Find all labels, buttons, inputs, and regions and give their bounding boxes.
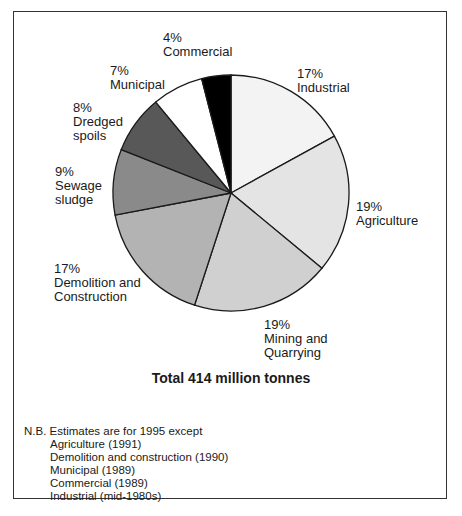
chart-total: Total 414 million tonnes xyxy=(0,370,462,386)
label-mining: 19% Mining and Quarrying xyxy=(264,318,328,360)
label-demolition: 17% Demolition and Construction xyxy=(54,262,141,304)
footnote-item: Municipal (1989) xyxy=(24,464,228,477)
footnote-item: Industrial (mid-1980s) xyxy=(24,490,228,503)
footnote-item: Commercial (1989) xyxy=(24,477,228,490)
footnote-item: Demolition and construction (1990) xyxy=(24,451,228,464)
label-sewage: 9% Sewage sludge xyxy=(55,165,102,207)
footnote: N.B. Estimates are for 1995 except Agric… xyxy=(24,425,228,503)
footnote-heading: N.B. Estimates are for 1995 except xyxy=(24,425,228,438)
label-dredged: 8% Dredged spoils xyxy=(73,101,123,143)
label-commercial: 4% Commercial xyxy=(163,31,232,59)
label-agriculture: 19% Agriculture xyxy=(356,200,418,228)
label-industrial: 17% Industrial xyxy=(297,67,350,95)
footnote-item: Agriculture (1991) xyxy=(24,438,228,451)
label-municipal: 7% Municipal xyxy=(110,64,165,92)
